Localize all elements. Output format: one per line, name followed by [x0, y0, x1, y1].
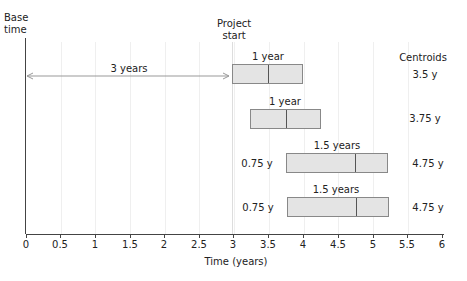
tick-label: 4.5 [330, 239, 346, 250]
box2 [250, 109, 321, 129]
tick [233, 234, 234, 238]
tick-label: 4 [300, 239, 306, 250]
x-axis-title: Time (years) [205, 256, 268, 268]
box4-centroid: 4.75 y [412, 202, 443, 214]
tick [407, 234, 408, 238]
box4-centroid-divider [356, 198, 357, 216]
tick [60, 234, 61, 238]
tick-label: 5.5 [399, 239, 415, 250]
box3 [286, 153, 388, 173]
tick [199, 234, 200, 238]
tick-label: 0 [23, 239, 29, 250]
tick-label: 5 [370, 239, 376, 250]
tick-label: 1 [92, 239, 98, 250]
box3-centroid: 4.75 y [412, 158, 443, 170]
box2-centroid: 3.75 y [409, 113, 440, 125]
box4-duration-label: 1.5 years [313, 184, 360, 196]
tick-label: 3 [230, 239, 236, 250]
tick [373, 234, 374, 238]
box3-offset-label: 0.75 y [241, 158, 272, 170]
tick-label: 2.5 [191, 239, 207, 250]
box4-offset-label: 0.75 y [242, 202, 273, 214]
tick-label: 2 [161, 239, 167, 250]
tick [26, 234, 27, 238]
tick-label: 1.5 [122, 239, 138, 250]
box3-duration-label: 1.5 years [314, 140, 361, 152]
tick [338, 234, 339, 238]
box1-centroid: 3.5 y [413, 69, 438, 81]
tick [268, 234, 269, 238]
box3-centroid-divider [355, 154, 356, 172]
box1-centroid-divider [268, 65, 269, 83]
tick [95, 234, 96, 238]
tick-label: 0.5 [52, 239, 68, 250]
tick-label: 3.5 [260, 239, 276, 250]
span-label: 3 years [110, 63, 147, 75]
box1-duration-label: 1 year [252, 51, 284, 63]
centroids-header: Centroids [399, 52, 447, 64]
tick [303, 234, 304, 238]
box2-centroid-divider [286, 110, 287, 128]
tick [442, 234, 443, 238]
tick [130, 234, 131, 238]
tick-label: 6 [439, 239, 445, 250]
box2-duration-label: 1 year [269, 96, 301, 108]
box1 [232, 64, 303, 84]
box4 [287, 197, 389, 217]
x-axis-line [26, 234, 444, 235]
tick [164, 234, 165, 238]
